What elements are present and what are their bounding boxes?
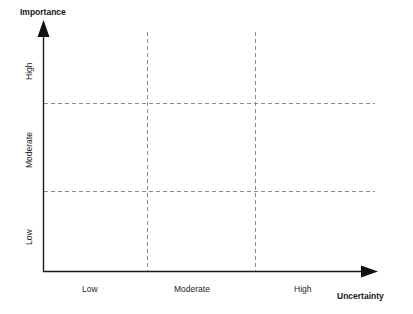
- x-tick-label-moderate: Moderate: [174, 285, 210, 294]
- y-tick-label-moderate: Moderate: [25, 132, 34, 168]
- chart-background: [0, 0, 413, 314]
- y-axis-title: Importance: [20, 8, 66, 17]
- x-tick-label-low: Low: [82, 285, 98, 294]
- x-axis-title: Uncertainty: [337, 292, 384, 301]
- x-tick-label-high: High: [294, 285, 311, 294]
- chart-canvas: [0, 0, 413, 314]
- importance-uncertainty-matrix: Importance Uncertainty Low Moderate High…: [0, 0, 413, 314]
- y-tick-label-low: Low: [25, 229, 34, 245]
- y-tick-label-high: High: [25, 63, 34, 80]
